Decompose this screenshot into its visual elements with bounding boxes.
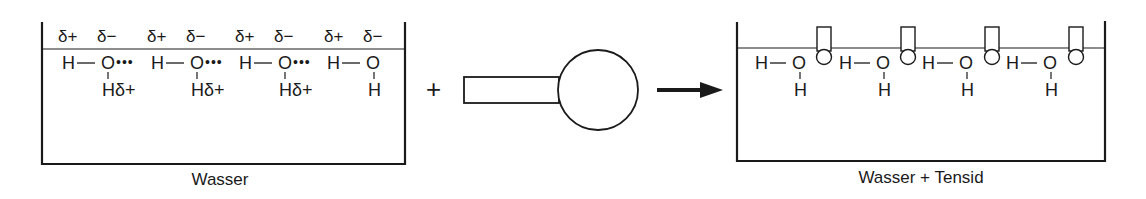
oxygen-atom: O <box>1043 53 1057 73</box>
charge-label: δ+ <box>58 27 77 46</box>
charge-label: δ− <box>97 27 116 46</box>
hydrogen-atom: H <box>1045 80 1058 100</box>
surfactant-molecule-icon <box>901 27 916 65</box>
hydrophilic-head <box>558 50 638 130</box>
oxygen-atom: O <box>190 53 204 73</box>
hydrophobic-tail <box>464 77 559 103</box>
hydrogen-atom: H <box>151 53 164 73</box>
hydrogen-atom: H <box>1006 53 1019 73</box>
hydrogen-partial-charge: Hδ+ <box>279 80 313 100</box>
hydrogen-partial-charge: Hδ+ <box>102 80 136 100</box>
charge-label: δ− <box>186 27 205 46</box>
charge-label: δ− <box>274 27 293 46</box>
hydrogen-partial-charge: Hδ+ <box>191 80 225 100</box>
water-molecule: H O H <box>922 53 974 100</box>
hydrogen-bond-dots: ••• <box>293 54 311 70</box>
plus-operator: + <box>426 74 441 104</box>
hydrogen-atom: H <box>922 53 935 73</box>
hydrogen-atom: H <box>239 53 252 73</box>
water-molecule: H O ••• Hδ+ <box>239 53 313 100</box>
hydrogen-atom: H <box>62 53 75 73</box>
charge-label: δ− <box>363 27 382 46</box>
left-molecules: H O ••• Hδ+ H O ••• Hδ+ H O ••• Hδ+ H <box>62 53 381 100</box>
water-molecule: H O ••• Hδ+ <box>151 53 225 100</box>
charge-label: δ+ <box>235 27 254 46</box>
hydrogen-atom: H <box>839 53 852 73</box>
water-molecule: H O H <box>1006 53 1058 100</box>
charge-labels: δ+ δ− δ+ δ− δ+ δ− δ+ δ− <box>58 27 382 46</box>
oxygen-atom: O <box>101 53 115 73</box>
surfactant-molecule-icon <box>985 27 1000 65</box>
hydrogen-atom: H <box>368 80 381 100</box>
hydrogen-atom: H <box>794 80 807 100</box>
left-panel-caption: Wasser <box>120 170 320 190</box>
surfactant-molecule-icon <box>817 27 832 65</box>
oxygen-atom: O <box>278 53 292 73</box>
hydrogen-bond-dots: ••• <box>116 54 134 70</box>
charge-label: δ+ <box>147 27 166 46</box>
surfactant-molecule-icon <box>1069 27 1084 65</box>
right-arrow-icon <box>657 82 723 98</box>
hydrogen-atom: H <box>878 80 891 100</box>
hydrogen-atom: H <box>961 80 974 100</box>
water-molecule: H O ••• Hδ+ <box>62 53 136 100</box>
water-molecule: H O H <box>327 53 381 100</box>
right-panel-caption: Wasser + Tensid <box>821 168 1021 188</box>
water-molecule: H O H <box>755 53 807 100</box>
hydrogen-atom: H <box>327 53 340 73</box>
oxygen-atom: O <box>876 53 890 73</box>
water-molecule: H O H <box>839 53 891 100</box>
hydrogen-bond-dots: ••• <box>205 54 223 70</box>
oxygen-atom: O <box>959 53 973 73</box>
oxygen-atom: O <box>792 53 806 73</box>
hydrogen-atom: H <box>755 53 768 73</box>
charge-label: δ+ <box>324 27 343 46</box>
surfactant-molecule-icon <box>464 50 638 130</box>
oxygen-atom: O <box>366 53 380 73</box>
